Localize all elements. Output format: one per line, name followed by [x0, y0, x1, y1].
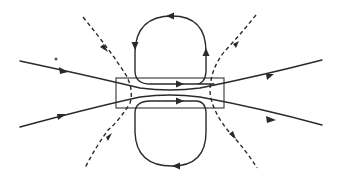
arrow-right-dashed-top: [233, 41, 239, 48]
central-box: [116, 78, 224, 108]
arrow-upper-through-right: [266, 74, 274, 80]
arrow-lower-loop-inside: [176, 98, 184, 105]
marker-dot: [55, 58, 58, 61]
arrow-upper-loop-right: [203, 48, 210, 56]
upper-through-line: [20, 60, 322, 90]
left-dashed-boundary: [83, 17, 131, 168]
arrow-left-dashed-top: [100, 44, 108, 52]
field-line-diagram: [0, 0, 339, 180]
arrow-right-dashed-bottom: [229, 131, 236, 139]
lower-through-line: [20, 95, 322, 127]
arrow-lower-loop-bottom: [172, 163, 180, 170]
right-dashed-boundary: [210, 15, 257, 168]
arrow-left-dashed-bottom: [106, 133, 112, 141]
arrow-upper-loop-left: [132, 42, 139, 50]
arrow-upper-loop-inside: [176, 81, 184, 88]
upper-loop: [132, 13, 215, 88]
arrow-upper-loop-top: [166, 13, 174, 20]
arrow-lower-through-right: [266, 116, 276, 123]
arrow-lower-through-left: [57, 114, 66, 120]
